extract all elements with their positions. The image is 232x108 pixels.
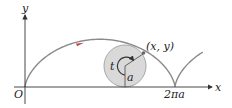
period-tick-label: 2πa [163, 88, 185, 101]
origin-label: O [14, 88, 23, 101]
x-axis-label: x [215, 81, 222, 94]
radius-label: a [127, 71, 134, 84]
direction-arrow-icon [76, 43, 84, 46]
point-marker [142, 51, 146, 55]
point-label: (x, y) [146, 40, 174, 53]
angle-label: t [110, 60, 115, 73]
y-axis-label: y [21, 2, 29, 15]
cycloid-diagram: y x O (x, y) t a 2πa [0, 0, 232, 108]
